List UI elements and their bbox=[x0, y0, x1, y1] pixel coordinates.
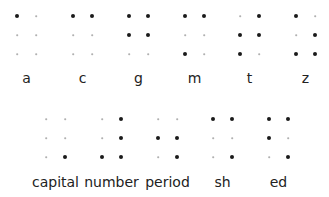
raised-dot-icon bbox=[175, 155, 179, 159]
cell-label: a bbox=[22, 70, 31, 86]
empty-dot-icon bbox=[16, 34, 18, 36]
empty-dot-icon bbox=[287, 137, 289, 139]
raised-dot-icon bbox=[146, 33, 150, 37]
empty-dot-icon bbox=[203, 53, 205, 55]
raised-dot-icon bbox=[100, 155, 104, 159]
raised-dot-icon bbox=[90, 14, 94, 18]
empty-dot-icon bbox=[295, 34, 297, 36]
raised-dot-icon bbox=[238, 52, 242, 56]
raised-dot-icon bbox=[183, 14, 187, 18]
empty-dot-icon bbox=[231, 137, 233, 139]
raised-dot-icon bbox=[286, 155, 290, 159]
cell-label: capital bbox=[32, 174, 79, 190]
raised-dot-icon bbox=[119, 117, 123, 121]
empty-dot-icon bbox=[101, 137, 103, 139]
empty-dot-icon bbox=[64, 137, 66, 139]
raised-dot-icon bbox=[156, 136, 160, 140]
cell-label: z bbox=[302, 70, 309, 86]
empty-dot-icon bbox=[212, 156, 214, 158]
raised-dot-icon bbox=[267, 136, 271, 140]
raised-dot-icon bbox=[267, 117, 271, 121]
cell-label: g bbox=[134, 70, 143, 86]
cell-label: sh bbox=[214, 174, 230, 190]
raised-dot-icon bbox=[127, 14, 131, 18]
cell-label: number bbox=[84, 174, 139, 190]
raised-dot-icon bbox=[71, 14, 75, 18]
cell-label: ed bbox=[270, 174, 288, 190]
cell-label: period bbox=[145, 174, 190, 190]
empty-dot-icon bbox=[268, 156, 270, 158]
empty-dot-icon bbox=[45, 118, 47, 120]
empty-dot-icon bbox=[239, 15, 241, 17]
empty-dot-icon bbox=[258, 53, 260, 55]
empty-dot-icon bbox=[64, 118, 66, 120]
raised-dot-icon bbox=[313, 33, 317, 37]
raised-dot-icon bbox=[127, 33, 131, 37]
raised-dot-icon bbox=[63, 155, 67, 159]
cell-label: m bbox=[188, 70, 202, 86]
raised-dot-icon bbox=[294, 14, 298, 18]
raised-dot-icon bbox=[119, 155, 123, 159]
empty-dot-icon bbox=[176, 118, 178, 120]
empty-dot-icon bbox=[72, 53, 74, 55]
raised-dot-icon bbox=[202, 14, 206, 18]
empty-dot-icon bbox=[91, 53, 93, 55]
raised-dot-icon bbox=[238, 33, 242, 37]
empty-dot-icon bbox=[35, 53, 37, 55]
empty-dot-icon bbox=[35, 15, 37, 17]
raised-dot-icon bbox=[313, 52, 317, 56]
cell-label: t bbox=[247, 70, 253, 86]
raised-dot-icon bbox=[230, 117, 234, 121]
empty-dot-icon bbox=[45, 137, 47, 139]
raised-dot-icon bbox=[211, 117, 215, 121]
empty-dot-icon bbox=[314, 15, 316, 17]
raised-dot-icon bbox=[294, 52, 298, 56]
empty-dot-icon bbox=[45, 156, 47, 158]
empty-dot-icon bbox=[203, 34, 205, 36]
empty-dot-icon bbox=[184, 34, 186, 36]
raised-dot-icon bbox=[146, 14, 150, 18]
empty-dot-icon bbox=[157, 156, 159, 158]
raised-dot-icon bbox=[15, 14, 19, 18]
empty-dot-icon bbox=[147, 53, 149, 55]
raised-dot-icon bbox=[175, 136, 179, 140]
empty-dot-icon bbox=[101, 118, 103, 120]
raised-dot-icon bbox=[183, 52, 187, 56]
raised-dot-icon bbox=[230, 155, 234, 159]
empty-dot-icon bbox=[16, 53, 18, 55]
raised-dot-icon bbox=[119, 136, 123, 140]
raised-dot-icon bbox=[257, 33, 261, 37]
raised-dot-icon bbox=[286, 117, 290, 121]
empty-dot-icon bbox=[157, 118, 159, 120]
empty-dot-icon bbox=[212, 137, 214, 139]
empty-dot-icon bbox=[72, 34, 74, 36]
empty-dot-icon bbox=[91, 34, 93, 36]
raised-dot-icon bbox=[257, 14, 261, 18]
empty-dot-icon bbox=[128, 53, 130, 55]
empty-dot-icon bbox=[35, 34, 37, 36]
cell-label: c bbox=[79, 70, 87, 86]
